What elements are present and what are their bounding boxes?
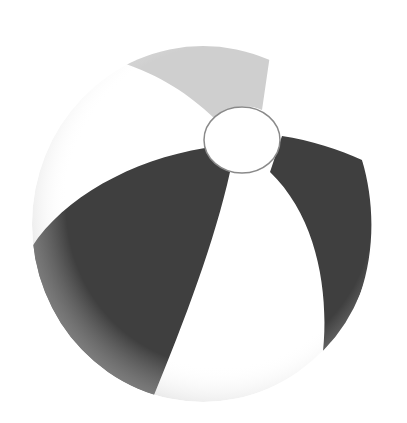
edge-shading (32, 46, 374, 402)
valve-cap (204, 107, 280, 173)
beach-ball-illustration (0, 0, 407, 423)
ball-body (0, 0, 407, 423)
